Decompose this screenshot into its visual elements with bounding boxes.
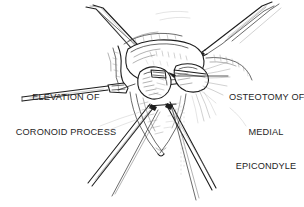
label-right-line-2: MEDIAL: [229, 127, 303, 139]
label-left-line-2: CORONOID PROCESS: [10, 127, 122, 139]
label-left-line-1: ELEVATION OF: [10, 92, 122, 104]
coronoid-process: [138, 67, 171, 99]
label-right-line-3: EPICONDYLE: [229, 161, 303, 173]
label-elevation-of-coronoid-process: ELEVATION OF CORONOID PROCESS: [10, 69, 122, 161]
label-right-line-1: OSTEOTOMY OF: [229, 92, 303, 104]
surgical-illustration-figure: .ln { fill:none; stroke:#2b2b2b; stroke-…: [0, 0, 304, 207]
label-osteotomy-of-medial-epicondyle: OSTEOTOMY OF MEDIAL EPICONDYLE: [229, 69, 303, 196]
